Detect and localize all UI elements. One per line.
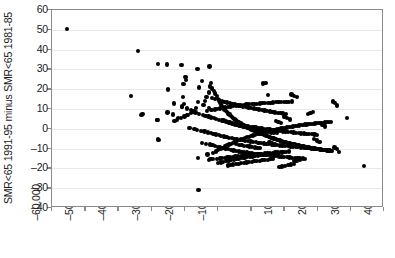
y-tick-label: 20 <box>8 83 48 93</box>
x-tick-mark <box>283 207 284 211</box>
data-point <box>273 142 277 146</box>
x-tick-mark <box>151 207 152 211</box>
data-point <box>179 63 183 67</box>
data-point <box>156 137 160 141</box>
data-point <box>139 113 143 117</box>
y-tick-label: –20 <box>8 162 48 172</box>
gridline <box>52 188 382 189</box>
y-tick-label: –10 <box>8 143 48 153</box>
y-tick-label: 0 <box>8 123 48 133</box>
data-point <box>182 114 186 118</box>
y-tick-label: 10 <box>8 103 48 113</box>
data-point <box>292 162 296 166</box>
data-point <box>290 99 294 103</box>
data-point <box>165 62 169 66</box>
x-tick-label: –40,000 <box>110 214 124 258</box>
data-point <box>205 152 209 156</box>
x-tick-label: –20,000 <box>177 214 191 258</box>
data-point <box>303 157 307 161</box>
data-point <box>172 119 176 123</box>
data-point <box>172 101 176 105</box>
scatter-plot-figure: SMR<65 1991-95 minus SMR<65 1981-85 –40–… <box>0 0 395 258</box>
x-tick-label: 0 <box>243 214 257 258</box>
data-point <box>337 150 341 154</box>
data-point <box>196 188 200 192</box>
gridline <box>52 69 382 70</box>
x-tick-label: –50,000 <box>77 214 91 258</box>
gridline <box>52 50 382 51</box>
data-point <box>283 164 287 168</box>
x-tick-mark <box>217 207 218 211</box>
y-tick-label: 50 <box>8 24 48 34</box>
data-point <box>311 110 315 114</box>
data-point <box>196 100 200 104</box>
data-point <box>136 49 140 53</box>
data-point <box>271 157 275 161</box>
x-tick-label: 30,000 <box>343 214 357 258</box>
data-point <box>200 79 204 83</box>
y-tick-label: 30 <box>8 63 48 73</box>
y-tick-label: 40 <box>8 44 48 54</box>
data-point <box>315 133 319 137</box>
y-tick-label: 60 <box>8 4 48 14</box>
data-point <box>309 146 313 150</box>
x-tick-label: –30,000 <box>144 214 158 258</box>
data-point <box>275 131 279 135</box>
x-tick-mark <box>51 207 52 211</box>
data-point <box>280 150 284 154</box>
data-point <box>129 94 133 98</box>
data-point <box>179 116 183 120</box>
x-tick-mark <box>84 207 85 211</box>
data-point <box>265 129 269 133</box>
data-point <box>197 85 201 89</box>
x-tick-label: –60,000 <box>44 214 58 258</box>
data-point <box>195 67 199 71</box>
data-point <box>345 116 349 120</box>
x-tick-mark <box>184 207 185 211</box>
gridline <box>52 129 382 130</box>
x-tick-mark <box>317 207 318 211</box>
x-tick-mark <box>383 207 384 211</box>
data-point <box>156 62 160 66</box>
data-point <box>288 117 292 121</box>
plot-area <box>51 9 383 207</box>
data-point <box>171 112 175 116</box>
data-point <box>165 110 169 114</box>
data-point <box>287 149 291 153</box>
data-point <box>258 146 262 150</box>
data-point <box>266 93 270 97</box>
data-point <box>187 126 191 130</box>
data-point <box>181 82 185 86</box>
x-tick-mark <box>350 207 351 211</box>
gridline <box>52 30 382 31</box>
gridline <box>52 89 382 90</box>
data-point <box>201 103 205 107</box>
x-tick-mark <box>250 207 251 211</box>
data-point <box>317 140 321 144</box>
data-point <box>166 87 170 91</box>
data-point <box>263 81 267 85</box>
x-tick-label: 10,000 <box>276 214 290 258</box>
data-point <box>335 103 339 107</box>
data-point <box>298 158 302 162</box>
x-tick-label: 40,000 <box>376 214 390 258</box>
data-point <box>295 95 299 99</box>
data-point <box>279 121 283 125</box>
gridline <box>52 168 382 169</box>
data-point <box>181 95 185 99</box>
x-tick-label: –10,000 <box>210 214 224 258</box>
x-tick-mark <box>117 207 118 211</box>
data-point <box>207 64 211 68</box>
x-tick-label: 20,000 <box>310 214 324 258</box>
data-point <box>196 156 200 160</box>
data-point <box>329 120 333 124</box>
